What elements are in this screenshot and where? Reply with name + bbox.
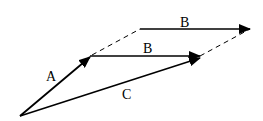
dashed-line-left: [92, 29, 140, 55]
label-a: A: [46, 70, 56, 84]
vector-a-arrow: [20, 57, 90, 116]
label-b-lower: B: [143, 42, 152, 56]
vector-c-arrow: [20, 58, 200, 116]
vector-diagram-canvas: [0, 0, 263, 121]
label-c: C: [122, 88, 131, 102]
dashed-line-right: [200, 29, 250, 56]
vector-diagram: A B B C: [0, 0, 263, 121]
label-b-upper: B: [180, 16, 189, 30]
